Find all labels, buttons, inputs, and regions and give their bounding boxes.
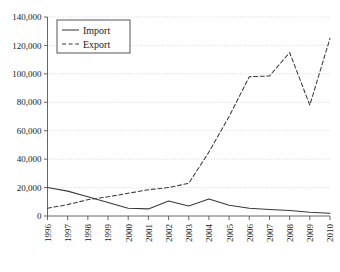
legend-label-import: Import [83, 25, 110, 36]
x-tick-label: 1997 [63, 224, 73, 243]
x-axis-ticks: 1996199719981999200020012002200320042005… [43, 216, 336, 242]
x-tick-label: 2008 [285, 224, 295, 243]
legend-label-export: Export [83, 39, 110, 50]
y-tick-label: 20,000 [17, 183, 42, 193]
series-line-export [48, 38, 331, 208]
x-tick-label: 1996 [43, 224, 53, 243]
x-tick-label: 2003 [184, 224, 194, 243]
chart-container: 020,00040,00060,00080,000100,000120,0001… [0, 0, 340, 272]
y-axis-ticks: 020,00040,00060,00080,000100,000120,0001… [12, 12, 47, 221]
x-tick-label: 1998 [83, 224, 93, 243]
x-tick-label: 2001 [144, 224, 154, 242]
x-tick-label: 1999 [103, 224, 113, 243]
y-tick-label: 140,000 [12, 12, 42, 22]
x-tick-label: 2009 [305, 224, 315, 243]
x-tick-label: 2006 [245, 224, 255, 243]
x-tick-label: 2007 [265, 224, 275, 243]
y-tick-label: 120,000 [12, 41, 42, 51]
y-tick-label: 0 [37, 211, 42, 221]
x-tick-label: 2000 [124, 224, 134, 243]
y-tick-label: 80,000 [17, 97, 42, 107]
x-tick-label: 2010 [325, 224, 335, 243]
series-line-import [48, 188, 331, 214]
y-tick-label: 40,000 [17, 154, 42, 164]
y-tick-label: 60,000 [17, 126, 42, 136]
x-tick-label: 2002 [164, 224, 174, 242]
line-chart: 020,00040,00060,00080,000100,000120,0001… [0, 0, 340, 272]
y-tick-label: 100,000 [12, 69, 42, 79]
x-tick-label: 2005 [225, 224, 235, 243]
chart-legend: ImportExport [57, 20, 130, 53]
x-tick-label: 2004 [204, 224, 214, 243]
